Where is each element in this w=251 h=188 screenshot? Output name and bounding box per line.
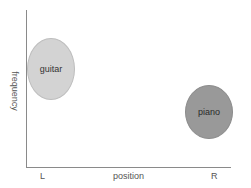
x-axis — [26, 167, 231, 168]
y-axis-label: frequency — [10, 66, 20, 116]
x-tick-right: R — [211, 171, 218, 181]
y-axis — [26, 10, 27, 167]
x-tick-left: L — [40, 171, 45, 181]
piano-label: piano — [198, 107, 220, 117]
piano-region: piano — [185, 85, 233, 139]
x-axis-label: position — [113, 171, 144, 181]
guitar-label: guitar — [40, 64, 63, 74]
guitar-region: guitar — [27, 38, 75, 100]
